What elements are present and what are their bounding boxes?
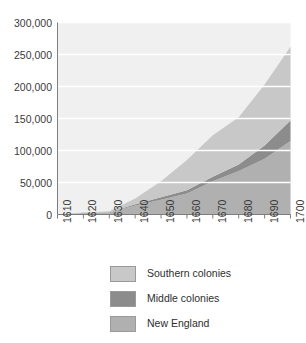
plot-region: 050,000100,000150,000200,000250,000300,0… [0, 0, 305, 230]
colonial-population-area-chart: 050,000100,000150,000200,000250,000300,0… [0, 0, 305, 343]
legend-swatch [110, 266, 136, 282]
x-axis-tick-label: 1690 [269, 199, 280, 222]
x-axis-tick-label: 1620 [87, 199, 98, 222]
x-axis-tick-label: 1660 [191, 199, 202, 222]
y-axis-tick-label: 200,000 [14, 82, 52, 93]
x-axis-tick-label: 1640 [139, 199, 150, 222]
x-axis-tick-label: 1670 [217, 199, 228, 222]
legend-label: New England [147, 318, 209, 329]
x-axis-tick-label: 1700 [295, 199, 306, 222]
chart-legend: Southern coloniesMiddle coloniesNew Engl… [110, 261, 295, 336]
x-axis-tick-label: 1610 [62, 199, 73, 222]
y-axis-tick-label: 50,000 [20, 178, 52, 189]
y-axis-tick-label: 0 [46, 210, 52, 221]
legend-item: Middle colonies [110, 286, 295, 311]
y-axis-tick-label: 250,000 [14, 50, 52, 61]
y-axis-tick-label: 100,000 [14, 146, 52, 157]
x-axis-tick-label: 1680 [243, 199, 254, 222]
legend-swatch [110, 291, 136, 307]
legend-label: Middle colonies [147, 293, 219, 304]
legend-label: Southern colonies [147, 268, 231, 279]
legend-swatch [110, 316, 136, 332]
x-axis-tick-label: 1630 [113, 199, 124, 222]
x-axis-tick-label: 1650 [165, 199, 176, 222]
y-axis-tick-label: 300,000 [14, 18, 52, 29]
legend-item: New England [110, 311, 295, 336]
y-axis-tick-label: 150,000 [14, 114, 52, 125]
legend-item: Southern colonies [110, 261, 295, 286]
